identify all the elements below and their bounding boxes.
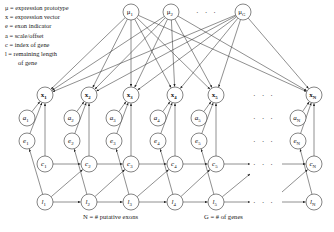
node-lN[interactable]: lN [306, 194, 322, 210]
edge-mu1-x4 [135, 19, 171, 87]
node-muG[interactable]: μG [235, 4, 251, 20]
edge-l1-c2 [51, 170, 83, 197]
caption-n-exons: N = # putative exons [83, 213, 138, 220]
prototype-ellipsis: · · · [196, 8, 218, 17]
edge-l4-c5 [181, 170, 210, 197]
node-xN[interactable]: xN [306, 87, 322, 103]
edge-l3-e3 [116, 149, 129, 194]
edge-mu1-x1 [51, 18, 125, 90]
edges [29, 15, 314, 202]
node-e1[interactable]: e1 [19, 133, 35, 149]
node-l3[interactable]: l3 [123, 194, 139, 210]
edge-a4-x4 [163, 102, 170, 112]
node-x2[interactable]: x2 [81, 87, 97, 103]
node-mu1[interactable]: μ1 [123, 4, 139, 20]
edge-mu2-x3 [135, 19, 168, 87]
edge-mu2-x1 [52, 16, 164, 90]
node-x4[interactable]: x4 [167, 87, 183, 103]
node-eN[interactable]: eN [290, 133, 306, 149]
node-x5[interactable]: x5 [208, 87, 224, 103]
edge-l1-e1 [29, 149, 42, 194]
edge-mu2-x4 [171, 20, 174, 87]
node-e4[interactable]: e4 [150, 133, 166, 149]
node-mu2[interactable]: μ2 [163, 4, 179, 20]
node-c2[interactable]: c2 [81, 156, 97, 172]
edge-l3-c4 [137, 170, 169, 197]
edge-mu2-x2 [95, 18, 165, 89]
node-x1[interactable]: x1 [37, 87, 53, 103]
edge-mu1-xN [138, 15, 306, 91]
node-e3[interactable]: e3 [106, 133, 122, 149]
node-aN[interactable]: aN [290, 110, 306, 126]
edge-muG-x2 [97, 16, 237, 91]
edge-l4-e4 [160, 149, 173, 194]
node-c1[interactable]: c1 [37, 156, 53, 172]
node-cN[interactable]: cN [306, 156, 322, 172]
row-ellipsis-0: · · · [253, 91, 275, 100]
edge-mu2-xN [178, 16, 307, 91]
edge-l-c-in-N [282, 170, 308, 192]
node-l4[interactable]: l4 [167, 194, 183, 210]
edge-l2-c3 [95, 170, 125, 197]
edge-muG-xN [248, 18, 308, 88]
node-a3[interactable]: a3 [106, 110, 122, 126]
node-c5[interactable]: c5 [208, 156, 224, 172]
node-l1[interactable]: l1 [37, 194, 53, 210]
edge-a5-x5 [204, 102, 211, 112]
caption-g-genes: G = # of genes [204, 213, 243, 220]
row-ellipsis-1: · · · [253, 114, 275, 123]
edge-l5-e5 [201, 149, 214, 194]
row-ellipsis-4: · · · [253, 198, 275, 207]
node-a2[interactable]: a2 [64, 110, 80, 126]
edge-a2-x2 [77, 102, 84, 112]
edge-l5-c-out [222, 174, 250, 197]
node-a1[interactable]: a1 [19, 110, 35, 126]
row-ellipsis-2: · · · [253, 137, 275, 146]
node-e2[interactable]: e2 [64, 133, 80, 149]
node-e5[interactable]: e5 [191, 133, 207, 149]
edge-aN-xN [303, 102, 310, 111]
edge-l2-e2 [74, 149, 87, 194]
node-c3[interactable]: c3 [123, 156, 139, 172]
node-c4[interactable]: c4 [167, 156, 183, 172]
edge-mu2-x5 [175, 19, 212, 88]
graphical-model-diagram: μ1μ2μGx1a1e1c1l1x2a2e2c2l2x3a3e3c3l3x4a4… [0, 0, 334, 232]
edge-a3-x3 [119, 102, 126, 112]
node-x3[interactable]: x3 [123, 87, 139, 103]
node-l2[interactable]: l2 [81, 194, 97, 210]
edge-a1-x1 [32, 102, 40, 112]
edge-lN-eN [300, 149, 312, 194]
row-ellipsis-3: · · · [253, 160, 275, 169]
node-l5[interactable]: l5 [208, 194, 224, 210]
node-a5[interactable]: a5 [191, 110, 207, 126]
node-a4[interactable]: a4 [150, 110, 166, 126]
